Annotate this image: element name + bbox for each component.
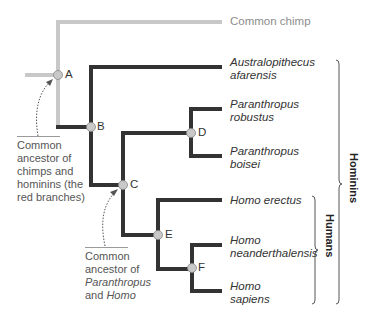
taxon-paranthropus-robustus: Paranthropus robustus: [230, 98, 299, 124]
clade-label-hominins: Hominins: [348, 153, 360, 203]
node-label-f: F: [198, 261, 205, 273]
taxon-line: Paranthropus: [230, 145, 299, 158]
node-c: [119, 181, 128, 190]
taxon-line: Paranthropus: [230, 98, 299, 111]
node-label-d: D: [198, 126, 206, 138]
node-d: [187, 129, 196, 138]
annotation-common-ancestor-paranthropus-homo: Common ancestor of Paranthropus and Homo: [85, 250, 151, 302]
node-b: [87, 123, 96, 132]
annotation-line: Common: [85, 250, 151, 263]
annotation-text: and: [85, 289, 106, 301]
taxon-line: Homo erectus: [230, 194, 302, 207]
taxon-line: boisei: [230, 158, 299, 171]
taxon-homo-erectus: Homo erectus: [230, 194, 302, 207]
node-label-a: A: [65, 68, 73, 80]
taxon-paranthropus-boisei: Paranthropus boisei: [230, 145, 299, 171]
node-label-b: B: [97, 120, 105, 132]
taxon-line: afarensis: [230, 69, 315, 82]
node-e: [154, 231, 163, 240]
taxon-line: Homo: [230, 280, 270, 293]
taxon-australopithecus-afarensis: Australopithecus afarensis: [230, 56, 315, 82]
taxon-common-chimp: Common chimp: [230, 15, 311, 28]
annotation-rule-c: [85, 247, 128, 248]
arrowhead-a: [46, 79, 53, 86]
annotation-line: ancestor of: [85, 263, 151, 276]
node-f: [188, 264, 197, 273]
taxon-homo-sapiens: Homo sapiens: [230, 280, 270, 306]
clade-label-humans: Humans: [324, 214, 336, 257]
taxon-line: Homo: [230, 234, 318, 247]
taxon-line: Australopithecus: [230, 56, 315, 69]
hominins-bracket: [336, 60, 342, 304]
annotation-common-ancestor-chimps-hominins: Common ancestor of chimps and hominins (…: [17, 139, 85, 204]
annotation-line: Common: [17, 139, 85, 152]
annotation-line: and Homo: [85, 289, 151, 302]
annotation-line: Paranthropus: [85, 276, 151, 289]
annotation-text-italic: Homo: [106, 289, 135, 301]
arrow-to-node-a: [37, 80, 52, 136]
annotation-line: ancestor of: [17, 152, 85, 165]
taxon-line: neanderthalensis: [230, 247, 318, 260]
node-a: [54, 71, 63, 80]
taxon-line: sapiens: [230, 293, 270, 306]
annotation-line: chimps and: [17, 165, 85, 178]
annotation-line: hominins (the: [17, 178, 85, 191]
taxon-line: robustus: [230, 111, 299, 124]
node-label-e: E: [165, 228, 173, 240]
arrowhead-c: [110, 189, 118, 196]
annotation-rule-a: [17, 136, 60, 137]
arrow-to-node-c: [103, 191, 116, 246]
taxon-homo-neanderthalensis: Homo neanderthalensis: [230, 234, 318, 260]
annotation-line: red branches): [17, 191, 85, 204]
node-label-c: C: [130, 178, 138, 190]
